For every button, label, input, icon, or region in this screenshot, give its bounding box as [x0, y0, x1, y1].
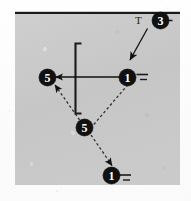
tick-mark-callout-1-bottom	[120, 175, 132, 180]
connector-5-to-1-bottom	[91, 135, 112, 166]
callout-5-lower-label: 5	[82, 122, 88, 134]
callout-5-left[interactable]: 5	[39, 69, 56, 86]
callout-1-bottom[interactable]: 1	[103, 167, 120, 184]
diagram-linework	[0, 0, 191, 201]
callout-5-left-label: 5	[45, 72, 51, 84]
callout-3-label: 3	[158, 15, 164, 27]
tick-mark-callout-1-center	[137, 75, 149, 80]
connector-3-to-1	[130, 29, 148, 61]
bracket-shape	[76, 44, 82, 114]
connector-5-to-5-left	[55, 85, 83, 124]
t-label: T	[135, 15, 142, 26]
connector-1-to-5-lower	[93, 85, 129, 127]
callout-1-center-label: 1	[125, 72, 131, 84]
callout-3[interactable]: 3	[152, 12, 169, 29]
callout-1-bottom-label: 1	[109, 170, 115, 182]
figure-page: T 3 1 5 5 1	[0, 0, 191, 201]
callout-5-lower[interactable]: 5	[76, 119, 93, 136]
callout-1-center[interactable]: 1	[119, 69, 136, 86]
